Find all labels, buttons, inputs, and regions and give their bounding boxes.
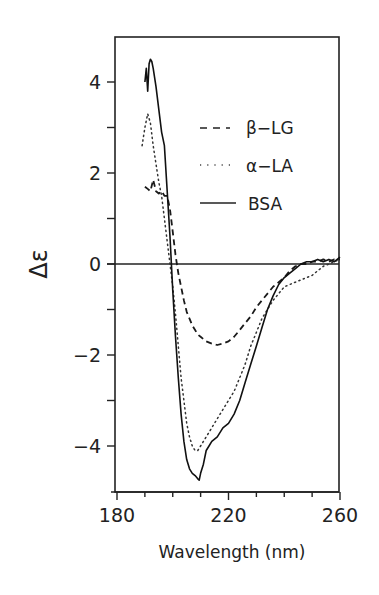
y-tick-label: 2 [89, 162, 101, 184]
y-tick-label: −4 [73, 435, 101, 457]
x-tick-label: 220 [210, 504, 246, 526]
legend-label-beta-lg: β−LG [246, 118, 294, 138]
y-tick-label: 0 [89, 253, 101, 275]
x-tick-label: 260 [322, 504, 358, 526]
y-tick-label: −2 [73, 344, 101, 366]
series-curves [142, 59, 340, 480]
legend: β−LG α−LA BSA [200, 118, 294, 214]
legend-label-alpha-la: α−LA [246, 156, 293, 176]
series-bsa-curve [145, 59, 340, 480]
x-axis-title: Wavelength (nm) [159, 542, 306, 562]
legend-label-bsa: BSA [248, 194, 282, 214]
x-tick-label: 180 [99, 504, 135, 526]
y-axis-title: Δε [25, 249, 53, 278]
cd-spectrum-chart: 180220260 420−2−4 β−LG α−LA BSA Waveleng… [0, 0, 379, 595]
x-ticks: 180220260 [99, 492, 358, 526]
y-tick-label: 4 [89, 71, 101, 93]
y-ticks: 420−2−4 [73, 71, 115, 457]
